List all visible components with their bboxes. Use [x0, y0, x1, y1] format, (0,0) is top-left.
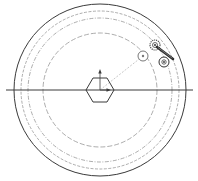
arrow-right-icon: [107, 88, 112, 91]
mechanism-diagram: [0, 0, 198, 181]
drive-wheel: [159, 57, 169, 67]
arrow-up-icon: [98, 69, 101, 74]
planetary-mechanism: [138, 40, 173, 67]
idler-wheel: [138, 51, 148, 61]
radial-line: [100, 56, 143, 90]
hub-axes: [98, 69, 111, 92]
